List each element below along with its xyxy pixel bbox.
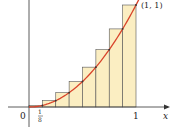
tick-eighth-numerator: 1 <box>38 108 42 115</box>
riemann-rectangle <box>123 5 136 107</box>
curve-point <box>82 81 84 83</box>
tick-eighth-denominator: 8 <box>38 116 42 123</box>
riemann-rectangles <box>29 5 136 107</box>
riemann-rectangle <box>69 82 82 108</box>
curve-point <box>55 100 57 102</box>
diagram-canvas: 0 1 8 1 x (1, 1) <box>0 0 177 140</box>
curve-point <box>95 66 97 68</box>
curve-point <box>108 49 110 51</box>
curve-point <box>68 92 70 94</box>
riemann-rectangle <box>83 67 96 107</box>
curve-point <box>41 105 43 107</box>
curve-point <box>122 28 124 30</box>
curve-point <box>135 4 137 6</box>
riemann-sum-figure: 0 1 8 1 x (1, 1) <box>0 0 177 140</box>
tick-one-label: 1 <box>133 111 139 121</box>
x-axis-arrow-icon <box>164 105 170 110</box>
x-axis-label: x <box>163 111 168 121</box>
point-label: (1, 1) <box>141 1 163 10</box>
origin-label: 0 <box>20 111 26 121</box>
